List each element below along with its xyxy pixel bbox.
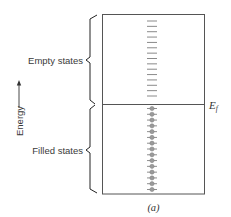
figure-caption: (a) (147, 202, 160, 214)
empty-state-levels (147, 21, 157, 96)
fermi-label-subscript: f (216, 104, 219, 113)
filled-state-level (147, 147, 157, 151)
filled-state-level (147, 118, 157, 122)
electron-icon (150, 164, 154, 168)
empty-states-brace (86, 15, 97, 104)
filled-state-level (147, 130, 157, 134)
filled-state-level (147, 187, 157, 191)
electron-icon (150, 141, 154, 145)
electron-icon (150, 153, 154, 157)
energy-axis-label: Energy (14, 106, 25, 136)
filled-state-level (147, 164, 157, 168)
electron-icon (150, 187, 154, 191)
electron-icon (150, 112, 154, 116)
electron-icon (150, 135, 154, 139)
filled-states-label: Filled states (32, 145, 83, 156)
filled-state-level (147, 106, 157, 110)
arrow-up-icon (17, 80, 21, 86)
electron-icon (150, 118, 154, 122)
filled-state-level (147, 176, 157, 180)
energy-axis: Energy (14, 80, 25, 136)
energy-band-diagram: Empty states Filled states Energy Ef (a) (0, 0, 231, 217)
filled-states-brace (86, 105, 97, 193)
filled-state-level (147, 153, 157, 157)
electron-icon (150, 182, 154, 186)
filled-state-level (147, 112, 157, 116)
filled-state-level (147, 141, 157, 145)
electron-icon (150, 158, 154, 162)
empty-states-label: Empty states (28, 55, 83, 66)
filled-state-level (147, 135, 157, 139)
filled-state-levels (147, 106, 157, 191)
electron-icon (150, 170, 154, 174)
filled-state-level (147, 124, 157, 128)
electron-icon (150, 130, 154, 134)
electron-icon (150, 147, 154, 151)
fermi-energy-label: Ef (208, 99, 219, 113)
electron-icon (150, 106, 154, 110)
filled-state-level (147, 158, 157, 162)
filled-state-level (147, 170, 157, 174)
electron-icon (150, 124, 154, 128)
filled-state-level (147, 182, 157, 186)
electron-icon (150, 176, 154, 180)
